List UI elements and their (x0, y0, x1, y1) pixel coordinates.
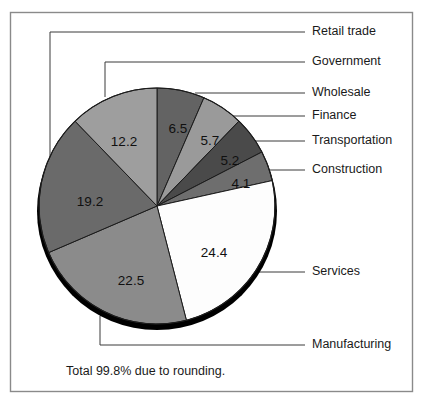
callout-label-government: Government (312, 54, 381, 68)
pie-chart-figure: 6.55.75.24.124.422.519.212.2 Retail trad… (0, 0, 425, 406)
slice-value-label: 5.7 (201, 133, 220, 148)
callout-label-transportation: Transportation (312, 133, 392, 147)
pie-slices-group (39, 88, 275, 324)
slice-value-label: 22.5 (118, 273, 144, 288)
callout-label-services: Services (312, 264, 360, 278)
slice-value-label: 6.5 (169, 121, 188, 136)
callout-label-construction: Construction (312, 162, 382, 176)
slice-value-label: 24.4 (201, 245, 228, 260)
chart-canvas: 6.55.75.24.124.422.519.212.2 Retail trad… (0, 0, 425, 406)
slice-value-label: 19.2 (77, 194, 103, 209)
callout-label-manufacturing: Manufacturing (312, 337, 391, 351)
slice-value-label: 4.1 (232, 176, 251, 191)
callout-label-finance: Finance (312, 108, 357, 122)
slice-value-label: 12.2 (111, 134, 137, 149)
slice-value-label: 5.2 (221, 153, 240, 168)
callout-label-retail-trade: Retail trade (312, 24, 376, 38)
footnote: Total 99.8% due to rounding. (66, 364, 225, 378)
callout-label-wholesale: Wholesale (312, 85, 370, 99)
